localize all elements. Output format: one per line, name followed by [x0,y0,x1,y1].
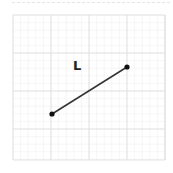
segment-endpoint-start[interactable] [49,111,54,116]
diagram-canvas: L [0,0,173,173]
grid-paper [0,0,173,173]
segment-label: L [73,59,81,72]
segment-endpoint-end[interactable] [124,64,129,69]
line-segment[interactable] [52,67,127,114]
